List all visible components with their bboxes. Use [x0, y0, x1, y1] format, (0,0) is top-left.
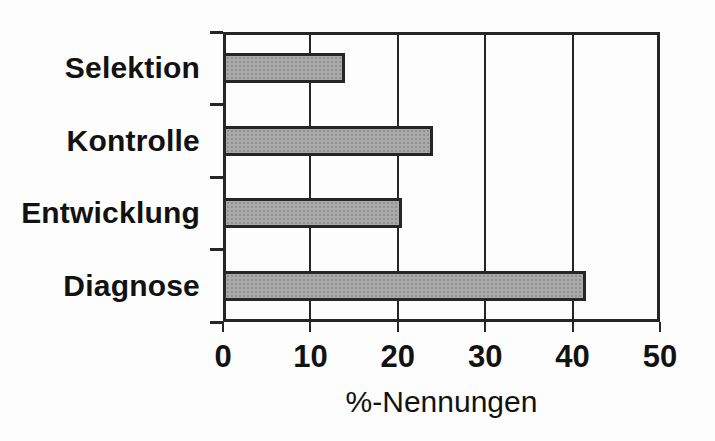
x-axis-tick [309, 322, 311, 332]
x-axis-tick [659, 322, 661, 332]
bar-selektion [223, 53, 345, 83]
x-axis-tick [222, 322, 224, 332]
x-tick-label: 0 [178, 341, 268, 372]
plot-area [223, 32, 660, 322]
x-axis-tick [572, 322, 574, 332]
bar-kontrolle [223, 126, 433, 156]
x-axis-line [223, 319, 660, 322]
bar-diagnose [223, 271, 586, 301]
x-axis-title: %-Nennungen [223, 386, 660, 418]
y-axis-tick [210, 176, 223, 179]
x-tick-label: 50 [615, 341, 705, 372]
x-axis-tick [484, 322, 486, 332]
x-tick-label: 20 [353, 341, 443, 372]
bar-chart: SelektionKontrolleEntwicklungDiagnose 01… [0, 0, 715, 441]
x-tick-label: 30 [440, 341, 530, 372]
plot-frame-top [223, 32, 660, 35]
plot-frame-right [657, 32, 660, 322]
y-axis-tick [210, 103, 223, 106]
category-label: Diagnose [0, 250, 200, 323]
category-label: Entwicklung [0, 177, 200, 250]
bar-entwicklung [223, 198, 402, 228]
x-axis-tick [397, 322, 399, 332]
y-axis-tick [210, 31, 223, 34]
x-tick-label: 10 [265, 341, 355, 372]
category-label: Kontrolle [0, 105, 200, 178]
y-axis-tick [210, 248, 223, 251]
category-label: Selektion [0, 32, 200, 105]
x-tick-label: 40 [528, 341, 618, 372]
